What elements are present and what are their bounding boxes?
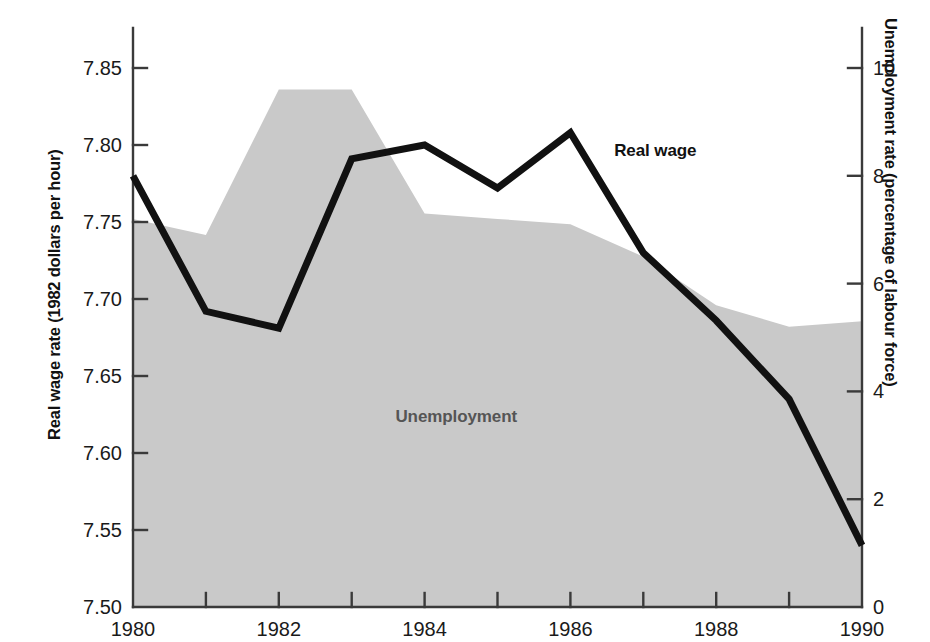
y-axis-left-tick-label: 7.50: [30, 597, 122, 617]
x-axis-tick-label: 1980: [111, 619, 156, 639]
y-axis-left-tick-label: 7.75: [30, 212, 122, 232]
y-axis-left-tick-label: 7.85: [30, 58, 122, 78]
x-axis-tick-label: 1984: [402, 619, 447, 639]
chart-container: Real wage rate (1982 dollars per hour) U…: [0, 0, 930, 642]
series-label-unemployment: Unemployment: [395, 407, 517, 427]
y-axis-left-tick-label: 7.60: [30, 443, 122, 463]
y-axis-right-tick-label: 8: [873, 166, 884, 186]
y-axis-left-tick-label: 7.55: [30, 520, 122, 540]
x-axis-tick-label: 1986: [548, 619, 593, 639]
y-axis-right-tick-label: 4: [873, 381, 884, 401]
unemployment-area-layer: [133, 90, 862, 607]
series-label-real-wage: Real wage: [614, 141, 696, 161]
y-axis-right-tick-label: 10: [873, 58, 895, 78]
y-axis-right-tick-label: 6: [873, 274, 884, 294]
y-axis-left-tick-label: 7.80: [30, 135, 122, 155]
x-axis-tick-label: 1990: [840, 619, 885, 639]
y-axis-left-tick-label: 7.65: [30, 366, 122, 386]
plot-area: [0, 0, 930, 642]
y-axis-right-tick-label: 0: [873, 597, 884, 617]
x-axis-tick-label: 1982: [257, 619, 302, 639]
y-axis-right-tick-label: 2: [873, 489, 884, 509]
unemployment-area: [133, 90, 862, 607]
x-axis-tick-label: 1988: [694, 619, 739, 639]
y-axis-left-tick-label: 7.70: [30, 289, 122, 309]
